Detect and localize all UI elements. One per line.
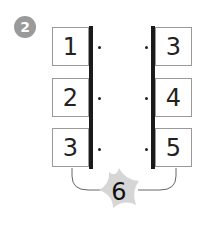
left-dot-1[interactable]: [98, 46, 101, 49]
right-box-3: 5: [155, 128, 192, 167]
left-dot-3[interactable]: [98, 148, 101, 151]
left-box-1: 1: [52, 27, 89, 66]
left-box-2: 2: [52, 78, 89, 117]
right-box-1: 3: [155, 27, 192, 66]
result-value: 6: [106, 178, 132, 206]
right-box-2: 4: [155, 78, 192, 117]
left-divider-bar: [89, 26, 93, 169]
right-dot-2[interactable]: [145, 97, 148, 100]
right-dot-1[interactable]: [145, 46, 148, 49]
left-dot-2[interactable]: [98, 97, 101, 100]
left-box-3: 3: [52, 128, 89, 167]
right-dot-3[interactable]: [145, 148, 148, 151]
